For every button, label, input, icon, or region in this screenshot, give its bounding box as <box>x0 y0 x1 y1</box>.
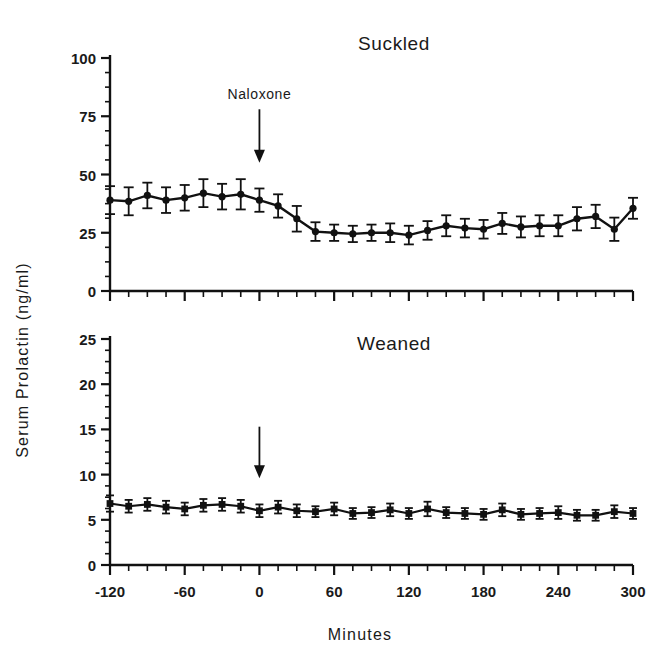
data-point-marker <box>162 197 169 204</box>
data-point-marker <box>517 223 524 230</box>
data-point-marker <box>480 511 487 518</box>
data-point-marker <box>200 502 207 509</box>
prolactin-two-panel-chart: Suckled 0255075100 Naloxone Weaned 05101… <box>0 0 660 667</box>
data-point-marker <box>536 510 543 517</box>
data-point-marker <box>387 229 394 236</box>
data-point-marker <box>611 508 618 515</box>
data-point-marker <box>592 512 599 519</box>
data-point-marker <box>237 191 244 198</box>
x-tick-label: -120 <box>95 583 125 600</box>
data-point-marker <box>312 508 319 515</box>
naloxone-label: Naloxone <box>227 86 291 102</box>
data-point-marker <box>331 506 338 513</box>
data-point-marker <box>181 194 188 201</box>
data-point-marker <box>405 510 412 517</box>
data-point-marker <box>424 227 431 234</box>
y-tick-label: 20 <box>79 376 96 393</box>
data-point-marker <box>387 506 394 513</box>
y-tick-label: 100 <box>71 50 96 67</box>
data-point-marker <box>405 231 412 238</box>
data-point-marker <box>293 507 300 514</box>
data-point-marker <box>218 193 225 200</box>
data-point-marker <box>555 222 562 229</box>
data-point-marker <box>200 190 207 197</box>
data-point-marker <box>424 506 431 513</box>
data-point-marker <box>163 504 170 511</box>
data-point-marker <box>368 509 375 516</box>
data-point-marker <box>461 510 468 517</box>
x-tick-label: 240 <box>546 583 571 600</box>
x-tick-label: 120 <box>396 583 421 600</box>
y-tick-label: 5 <box>88 512 96 529</box>
y-tick-label: 0 <box>88 557 96 574</box>
x-tick-label: 0 <box>255 583 263 600</box>
data-point-marker <box>368 229 375 236</box>
data-point-marker <box>480 226 487 233</box>
panel-title-weaned: Weaned <box>357 333 431 354</box>
data-point-marker <box>349 230 356 237</box>
data-point-marker <box>611 226 618 233</box>
data-point-marker <box>312 228 319 235</box>
data-point-marker <box>219 501 226 508</box>
y-tick-label: 25 <box>79 331 96 348</box>
data-point-marker <box>499 506 506 513</box>
x-axis-title: Minutes <box>328 626 392 643</box>
data-point-marker <box>629 205 636 212</box>
data-point-marker <box>573 215 580 222</box>
data-point-marker <box>125 503 132 510</box>
y-tick-label: 0 <box>88 283 96 300</box>
y-tick-label: 50 <box>79 167 96 184</box>
figure-container: Suckled 0255075100 Naloxone Weaned 05101… <box>0 0 660 667</box>
data-point-marker <box>275 202 282 209</box>
y-tick-label: 10 <box>79 467 96 484</box>
data-point-marker <box>256 197 263 204</box>
x-tick-label: 180 <box>471 583 496 600</box>
x-tick-label: -60 <box>174 583 196 600</box>
data-point-marker <box>630 510 637 517</box>
data-point-marker <box>106 197 113 204</box>
data-point-marker <box>275 504 282 511</box>
data-point-marker <box>293 215 300 222</box>
data-point-marker <box>518 511 525 518</box>
data-point-marker <box>461 224 468 231</box>
x-tick-label: 60 <box>326 583 343 600</box>
data-point-marker <box>237 503 244 510</box>
data-point-marker <box>443 509 450 516</box>
data-point-marker <box>592 213 599 220</box>
data-point-marker <box>443 222 450 229</box>
data-point-marker <box>144 192 151 199</box>
panel-title-suckled: Suckled <box>358 33 430 54</box>
data-point-marker <box>256 507 263 514</box>
x-tick-label: 300 <box>620 583 645 600</box>
data-point-marker <box>331 229 338 236</box>
data-point-marker <box>125 198 132 205</box>
figure-background <box>0 0 660 667</box>
data-point-marker <box>181 506 188 513</box>
y-tick-label: 15 <box>79 421 96 438</box>
y-axis-title: Serum Prolactin (ng/ml) <box>14 262 31 458</box>
y-tick-label: 75 <box>79 108 96 125</box>
data-point-marker <box>536 222 543 229</box>
data-point-marker <box>555 509 562 516</box>
data-point-marker <box>107 500 114 507</box>
y-tick-label: 25 <box>79 225 96 242</box>
data-point-marker <box>144 501 151 508</box>
data-point-marker <box>574 512 581 519</box>
data-point-marker <box>349 510 356 517</box>
data-point-marker <box>499 220 506 227</box>
